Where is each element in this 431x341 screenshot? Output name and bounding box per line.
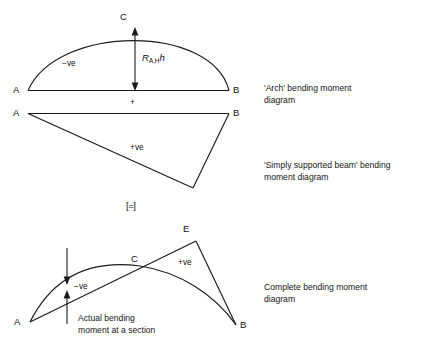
arch-negative-sign-label: −ve: [62, 58, 76, 68]
thrust-symbol: R: [142, 52, 149, 63]
complete-negative-sign-label: −ve: [74, 281, 88, 291]
beam-left-diagonal: [28, 114, 193, 189]
beam-caption: 'Simply supported beam' bending moment d…: [264, 160, 391, 183]
arch-horizontal-thrust-label: RA,Hh: [142, 53, 165, 64]
arch-baseline-plus-sign: +: [130, 97, 135, 107]
complete-chord-e-b: [196, 241, 236, 325]
thrust-height-symbol: h: [159, 52, 164, 63]
arch-panel-graphic: [28, 27, 229, 91]
complete-left-support-label: A: [14, 317, 20, 327]
arch-apex-label: C: [120, 12, 127, 22]
complete-positive-sign-label: +ve: [178, 257, 192, 267]
beam-right-support-label: B: [233, 108, 239, 118]
arch-dimension-arrowhead-bottom: [132, 83, 139, 92]
complete-crossing-label: C: [131, 254, 138, 264]
complete-chord-a-e: [30, 241, 196, 322]
complete-right-support-label: B: [240, 320, 246, 330]
beam-left-support-label: A: [13, 108, 19, 118]
simply-supported-panel-graphic: [28, 114, 229, 189]
thrust-subscript: A,H: [149, 57, 160, 64]
arch-left-support-label: A: [13, 85, 19, 95]
arch-right-support-label: B: [233, 85, 239, 95]
complete-peak-label: E: [183, 224, 189, 234]
complete-caption: Complete bending moment diagram: [264, 282, 367, 305]
equals-symbol: [=]: [126, 200, 135, 211]
section-arrow-up-head: [64, 290, 71, 299]
beam-positive-sign-label: +ve: [130, 142, 144, 152]
arch-dimension-arrowhead-top: [132, 27, 139, 36]
arch-caption: 'Arch' bending moment diagram: [264, 83, 351, 106]
arch-curve: [28, 41, 229, 91]
beam-right-diagonal: [193, 114, 229, 189]
section-moment-annotation: Actual bending moment at a section: [78, 313, 155, 336]
